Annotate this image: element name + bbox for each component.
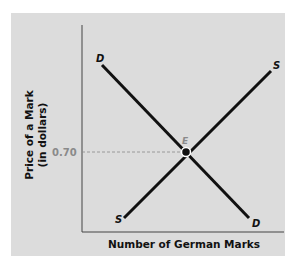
equilibrium-point [182,148,191,157]
x-axis-title: Number of German Marks [108,238,260,250]
demand-label-bottom: D [252,218,260,229]
y-axis-title-line1: Price of a Mark [23,89,35,179]
supply-demand-chart: D D S S E 0.70 Number of German Marks Pr… [0,0,304,269]
supply-curve [124,71,271,218]
demand-label-top: D [96,53,104,64]
y-axis-title-line2: (in dollars) [36,103,48,168]
y-tick-label: 0.70 [52,147,77,158]
supply-label-bottom: S [115,214,122,225]
supply-label-top: S [273,60,280,71]
demand-curve [102,65,249,218]
equilibrium-label: E [182,136,189,146]
